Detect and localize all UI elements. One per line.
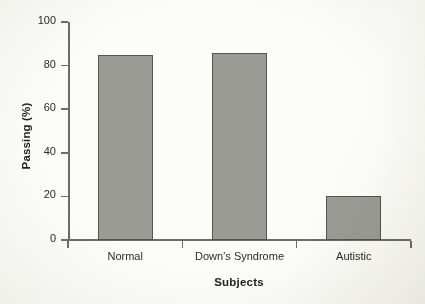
y-axis-tick: [61, 108, 68, 110]
bar: [98, 55, 153, 240]
x-axis-tick: [67, 241, 69, 248]
y-axis-tick: [61, 196, 68, 198]
x-axis-category-label: Down’s Syndrome: [182, 250, 296, 262]
y-axis-tick-label: 100: [18, 14, 56, 26]
bar-chart-figure: Passing (%) 020406080100 NormalDown’s Sy…: [0, 0, 425, 304]
bar: [326, 196, 381, 240]
x-axis-category-label: Normal: [68, 250, 182, 262]
y-axis-tick: [61, 65, 68, 67]
y-axis-tick: [61, 21, 68, 23]
x-axis-tick: [410, 241, 412, 248]
y-axis-tick-label: 40: [18, 145, 56, 157]
y-axis-title: Passing (%): [20, 16, 36, 256]
y-axis-tick-label: 20: [18, 188, 56, 200]
bar: [212, 53, 267, 240]
y-axis-tick-label: 60: [18, 101, 56, 113]
x-axis-tick: [182, 241, 184, 248]
y-axis-line: [68, 22, 70, 241]
y-axis-tick-label: 80: [18, 58, 56, 70]
x-axis-tick: [296, 241, 298, 248]
x-axis-title: Subjects: [68, 276, 410, 288]
x-axis-category-label: Autistic: [297, 250, 411, 262]
y-axis-tick: [61, 152, 68, 154]
y-axis-tick-label: 0: [18, 232, 56, 244]
